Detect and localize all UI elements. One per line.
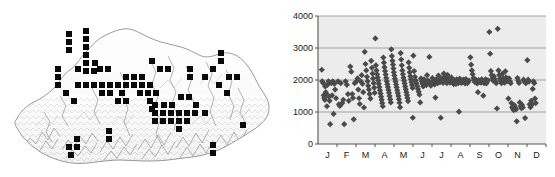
map-record-square <box>123 74 129 80</box>
map-record-square <box>83 82 89 88</box>
map-record-square <box>218 50 224 56</box>
map-record-square <box>83 44 89 50</box>
y-tick-label: 0 <box>308 139 313 149</box>
map-record-square <box>165 66 171 72</box>
map-record-square <box>66 47 72 53</box>
x-tick-label: S <box>476 150 482 160</box>
map-record-square <box>83 36 89 42</box>
x-tick-label: A <box>381 150 387 160</box>
map-record-square <box>106 136 112 142</box>
map-record-square <box>99 82 105 88</box>
map-record-square <box>91 82 97 88</box>
map-record-square <box>107 90 113 96</box>
map-record-square <box>176 110 182 116</box>
map-record-square <box>105 66 111 72</box>
map-record-square <box>139 74 145 80</box>
map-record-square <box>106 128 112 134</box>
map-record-square <box>75 66 81 72</box>
map-record-square <box>66 39 72 45</box>
map-record-square <box>193 102 199 108</box>
map-record-square <box>202 74 208 80</box>
map-record-square <box>186 94 192 100</box>
map-record-square <box>210 150 216 156</box>
map-record-square <box>99 90 105 96</box>
map-record-square <box>74 144 80 150</box>
map-record-square <box>234 74 240 80</box>
distribution-map-panel <box>0 0 280 177</box>
x-tick-label: J <box>420 150 425 160</box>
map-record-square <box>184 118 190 124</box>
map-record-square <box>168 118 174 124</box>
map-record-square <box>152 102 158 108</box>
map-record-square <box>192 110 198 116</box>
x-tick-label: F <box>344 150 350 160</box>
map-record-square <box>68 152 74 158</box>
x-tick-label: N <box>514 150 521 160</box>
map-record-square <box>160 118 166 124</box>
map-record-square <box>83 68 89 74</box>
map-record-square <box>83 60 89 66</box>
map-record-square <box>176 126 182 132</box>
map-record-square <box>145 90 151 96</box>
map-record-square <box>131 74 137 80</box>
map-record-square <box>115 82 121 88</box>
map-record-square <box>107 82 113 88</box>
bhutan-map-svg <box>0 0 280 177</box>
map-record-square <box>147 82 153 88</box>
map-record-square <box>224 90 230 96</box>
y-tick-label: 2000 <box>293 75 313 85</box>
map-record-square <box>55 74 61 80</box>
map-record-square <box>178 94 184 100</box>
map-record-square <box>131 82 137 88</box>
figure-container: 01000200030004000 JFMAMJJASOND <box>0 0 555 177</box>
elevation-scatter-svg: 01000200030004000 JFMAMJJASOND <box>280 0 555 177</box>
map-record-square <box>115 98 121 104</box>
map-record-square <box>210 66 216 72</box>
elevation-scatter-panel: 01000200030004000 JFMAMJJASOND <box>280 0 555 177</box>
map-record-square <box>66 144 72 150</box>
x-tick-label: J <box>439 150 444 160</box>
map-record-square <box>152 118 158 124</box>
map-record-square <box>97 66 103 72</box>
x-tick-label: J <box>325 150 330 160</box>
x-tick-label: A <box>457 150 463 160</box>
map-record-square <box>63 90 69 96</box>
x-tick-label: M <box>400 150 408 160</box>
map-record-square <box>119 90 125 96</box>
map-record-square <box>216 82 222 88</box>
y-tick-label: 4000 <box>293 11 313 21</box>
map-record-square <box>161 102 167 108</box>
y-tick-label: 3000 <box>293 43 313 53</box>
map-record-square <box>160 110 166 116</box>
map-record-square <box>137 90 143 96</box>
map-record-square <box>123 82 129 88</box>
map-record-square <box>184 110 190 116</box>
map-record-square <box>152 110 158 116</box>
map-record-square <box>202 110 208 116</box>
map-record-square <box>74 136 80 142</box>
map-record-square <box>187 66 193 72</box>
map-record-square <box>240 122 246 128</box>
map-record-square <box>176 118 182 124</box>
y-tick-label: 1000 <box>293 107 313 117</box>
x-tick-label: D <box>533 150 540 160</box>
map-record-square <box>210 142 216 148</box>
map-record-square <box>218 58 224 64</box>
map-record-square <box>83 52 89 58</box>
map-record-square <box>55 82 61 88</box>
map-record-square <box>91 68 97 74</box>
map-record-square <box>66 31 72 37</box>
x-tick-label: O <box>495 150 502 160</box>
map-record-square <box>83 28 89 34</box>
map-record-square <box>55 66 61 72</box>
map-record-square <box>139 82 145 88</box>
x-tick-label: M <box>362 150 370 160</box>
map-record-square <box>187 74 193 80</box>
map-record-square <box>75 82 81 88</box>
map-record-square <box>149 58 155 64</box>
map-record-square <box>226 74 232 80</box>
map-record-square <box>169 102 175 108</box>
map-record-square <box>168 110 174 116</box>
map-record-square <box>123 98 129 104</box>
map-record-square <box>92 60 98 66</box>
